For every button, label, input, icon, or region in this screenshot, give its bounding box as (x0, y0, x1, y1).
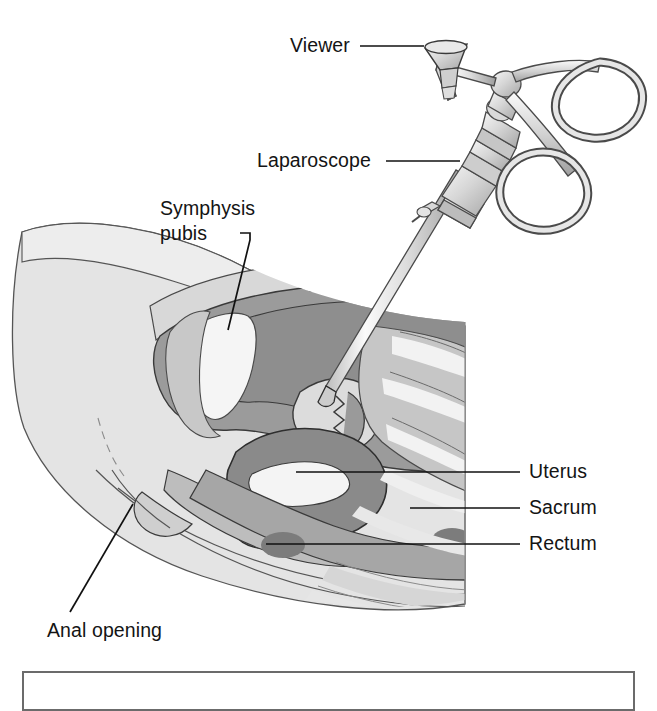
label-uterus: Uterus (529, 460, 587, 482)
label-symphysis-pubis-line2: pubis (160, 222, 207, 244)
label-laparoscope: Laparoscope (257, 149, 371, 171)
rectum-dark-patch (261, 532, 305, 558)
label-sacrum: Sacrum (529, 496, 597, 518)
label-symphysis-pubis-line1: Symphysis (160, 197, 255, 219)
anatomy-body (12, 223, 472, 634)
label-viewer: Viewer (290, 34, 350, 56)
label-anal-opening: Anal opening (47, 619, 162, 641)
caption-box (22, 671, 635, 711)
label-rectum: Rectum (529, 532, 597, 554)
finger-ring-lower-hilite (500, 152, 588, 230)
